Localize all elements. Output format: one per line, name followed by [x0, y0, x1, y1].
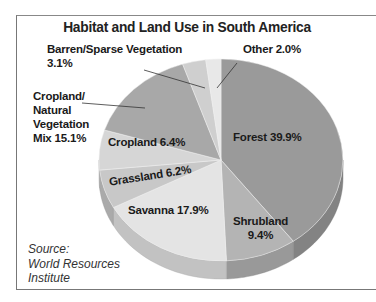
source-line1: Source:	[28, 242, 120, 257]
label-cropland: Cropland 6.4%	[108, 135, 185, 149]
label-barren-name: Barren/Sparse Vegetation	[47, 42, 182, 56]
label-forest: Forest 39.9%	[233, 130, 302, 144]
label-other: Other 2.0%	[243, 42, 301, 56]
label-shrubland: Shrubland 9.4%	[233, 214, 288, 242]
source-note: Source: World Resources Institute	[28, 242, 120, 286]
label-mix-line3: Vegetation	[33, 117, 89, 131]
source-line2: World Resources	[28, 257, 120, 272]
label-mix-line4: Mix 15.1%	[33, 131, 89, 145]
label-mix-line1: Cropland/	[33, 89, 89, 103]
source-line3: Institute	[28, 271, 120, 286]
label-mix-line2: Natural	[33, 103, 89, 117]
label-shrubland-name: Shrubland	[233, 214, 288, 228]
label-barren: Barren/Sparse Vegetation 3.1%	[47, 42, 182, 70]
label-cropland-mix: Cropland/ Natural Vegetation Mix 15.1%	[33, 89, 89, 145]
pie-slices	[99, 59, 343, 261]
label-barren-value: 3.1%	[47, 56, 182, 70]
label-savanna: Savanna 17.9%	[128, 203, 209, 217]
label-shrubland-value: 9.4%	[233, 228, 288, 242]
